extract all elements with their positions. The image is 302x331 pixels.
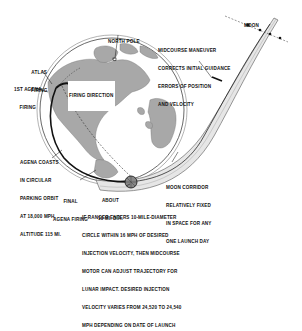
moon-position-dot	[259, 29, 262, 32]
midcourse-maneuver-label: MIDCOURSE MANEUVER CORRECTS INITIAL GUID…	[158, 36, 231, 120]
moon-position-dot	[269, 33, 272, 36]
injection-circle-icon	[125, 176, 137, 188]
moon-position-dot	[279, 37, 282, 40]
moon-label: MOON	[244, 11, 259, 41]
ranger-injection-note: IF RANGER ENTERS 10-MILE-DIAMETER CIRCLE…	[82, 203, 182, 331]
first-agena-firing-label: 1ST AGENA FIRING	[14, 75, 41, 123]
north-pole-label: NORTH POLE	[108, 27, 140, 57]
firing-direction-label: FIRING DIRECTION	[68, 81, 115, 111]
